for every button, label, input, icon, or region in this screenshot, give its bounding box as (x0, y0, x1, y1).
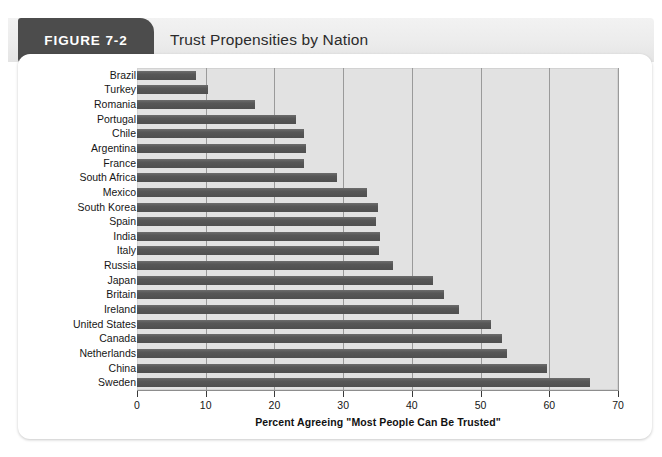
bar (137, 378, 590, 387)
x-axis-tick-label: 10 (191, 399, 221, 411)
bar (137, 100, 255, 109)
bar (137, 173, 337, 182)
x-axis-tick (618, 391, 619, 397)
bar (137, 261, 393, 270)
gridline (549, 68, 550, 390)
bar (137, 305, 459, 314)
bar (137, 159, 304, 168)
bar (137, 276, 433, 285)
category-label: Turkey (28, 84, 136, 95)
x-axis-tick-label: 40 (397, 399, 427, 411)
x-axis-title: Percent Agreeing "Most People Can Be Tru… (137, 416, 619, 428)
category-label: Russia (28, 260, 136, 271)
category-label: India (28, 231, 136, 242)
bar (137, 290, 444, 299)
x-axis-tick-label: 70 (603, 399, 633, 411)
bar (137, 349, 507, 358)
x-axis-tick-label: 30 (328, 399, 358, 411)
x-axis-tick-label: 0 (122, 399, 152, 411)
category-label: United States (28, 319, 136, 330)
bar (137, 71, 196, 80)
bar (137, 217, 376, 226)
x-axis-tick (274, 391, 275, 397)
category-label: Spain (28, 216, 136, 227)
bar (137, 320, 491, 329)
bar (137, 188, 367, 197)
category-label: Sweden (28, 377, 136, 388)
category-label: Britain (28, 289, 136, 300)
category-label: France (28, 158, 136, 169)
bar (137, 232, 380, 241)
x-axis-tick (343, 391, 344, 397)
category-label: Mexico (28, 187, 136, 198)
category-label: Netherlands (28, 348, 136, 359)
figure-body-panel: BrazilTurkeyRomaniaPortugalChileArgentin… (18, 54, 652, 439)
category-label: China (28, 363, 136, 374)
plot-area (137, 68, 618, 390)
bar (137, 334, 502, 343)
category-label: Canada (28, 333, 136, 344)
x-axis-tick-label: 60 (534, 399, 564, 411)
x-axis-tick (481, 391, 482, 397)
category-label: Ireland (28, 304, 136, 315)
x-axis-tick (137, 391, 138, 397)
category-label: Japan (28, 275, 136, 286)
bar (137, 246, 379, 255)
category-label: Brazil (28, 70, 136, 81)
category-label: Portugal (28, 114, 136, 125)
bar-chart: BrazilTurkeyRomaniaPortugalChileArgentin… (18, 54, 652, 439)
bar (137, 364, 547, 373)
x-axis-tick-label: 50 (466, 399, 496, 411)
category-label: Chile (28, 128, 136, 139)
x-axis-tick (412, 391, 413, 397)
category-label: Argentina (28, 143, 136, 154)
figure-number-label: FIGURE 7-2 (44, 33, 127, 48)
bar (137, 129, 304, 138)
category-label: Romania (28, 99, 136, 110)
gridline (618, 68, 619, 390)
bar (137, 144, 306, 153)
category-label: Italy (28, 245, 136, 256)
x-axis-tick-label: 20 (259, 399, 289, 411)
category-label: South Korea (28, 202, 136, 213)
bar (137, 85, 208, 94)
bar (137, 203, 378, 212)
category-axis-labels: BrazilTurkeyRomaniaPortugalChileArgentin… (28, 68, 136, 390)
x-axis-tick (206, 391, 207, 397)
bar (137, 115, 296, 124)
x-axis-line (137, 390, 619, 391)
x-axis-tick (549, 391, 550, 397)
category-label: South Africa (28, 172, 136, 183)
figure-card: FIGURE 7-2 Trust Propensities by Nation … (8, 8, 654, 445)
